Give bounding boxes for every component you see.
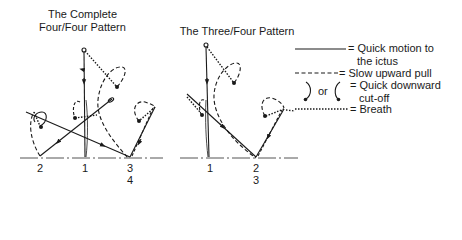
three-four-beat-2: 2 xyxy=(250,162,262,174)
legend-item-slow-upward: = Slow upward pull xyxy=(339,67,461,80)
legend-item-cutoff: = Quick downward cut-off xyxy=(350,79,462,104)
four-four-beat-2: 2 xyxy=(34,162,46,174)
legend-item-breath: = Breath xyxy=(350,103,462,116)
four-four-beat-1: 1 xyxy=(79,162,91,174)
four-four-beat-4: 4 xyxy=(124,174,136,186)
legend-item-quick-motion: = Quick motion to the ictus xyxy=(348,42,462,67)
three-four-pattern xyxy=(180,43,298,158)
four-four-pattern xyxy=(20,48,163,158)
four-four-beat-3: 3 xyxy=(124,162,136,174)
three-four-beat-1: 1 xyxy=(204,162,216,174)
three-four-beat-3: 3 xyxy=(250,174,262,186)
legend-or-label: or xyxy=(318,85,328,97)
stroke-to-beat1 xyxy=(84,52,85,157)
